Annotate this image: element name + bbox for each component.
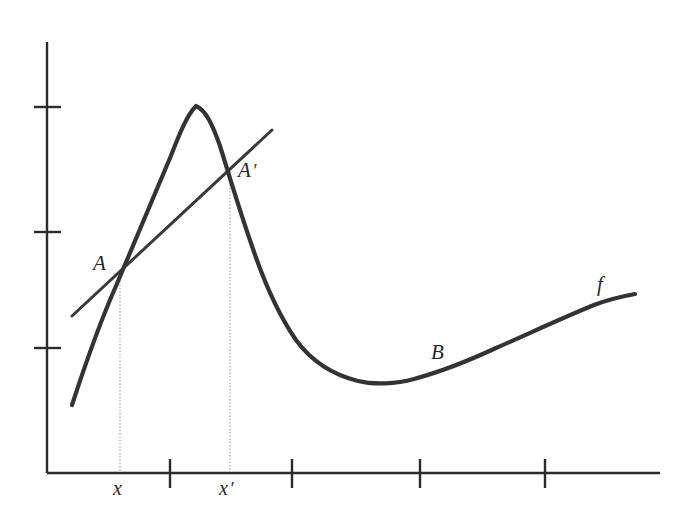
label-function-f: f	[597, 274, 603, 295]
function-curve-f	[72, 106, 635, 405]
label-x-prime-tick: x′	[219, 478, 233, 498]
figure-canvas: A A′ B f x x′	[0, 0, 678, 519]
label-x-prime-base: x	[219, 477, 228, 499]
guide-lines-group	[120, 168, 230, 472]
label-point-a-prime: A′	[238, 160, 257, 181]
label-point-a-prime-base: A	[238, 158, 251, 182]
label-point-b: B	[431, 342, 444, 363]
label-x-prime-mark: ′	[228, 479, 234, 499]
axes-group	[47, 42, 660, 473]
label-point-a-prime-mark: ′	[251, 160, 257, 181]
label-x-tick: x	[113, 478, 122, 498]
label-point-a: A	[93, 253, 106, 274]
